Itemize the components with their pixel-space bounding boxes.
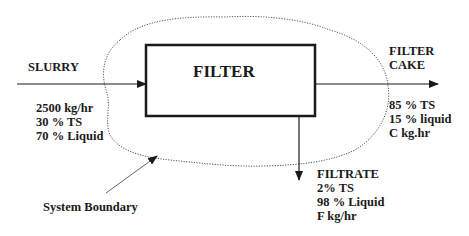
slurry-liquid: 70 % Liquid — [36, 129, 103, 144]
filter-cake-flow: C kg.hr — [389, 126, 430, 141]
slurry-flow-rate: 2500 kg/hr — [36, 101, 93, 116]
slurry-ts: 30 % TS — [36, 115, 82, 130]
filter-label: FILTER — [193, 65, 255, 80]
slurry-label: SLURRY — [28, 60, 79, 75]
boundary-pointer-arrow — [106, 156, 157, 193]
filter-cake-ts: 85 % TS — [389, 98, 435, 113]
filter-cake-liquid: 15 % liquid — [389, 112, 452, 127]
filtrate-flow: F kg/hr — [317, 209, 356, 224]
filtrate-ts: 2% TS — [317, 181, 354, 196]
system-boundary-label: System Boundary — [43, 200, 138, 215]
filtrate-liquid: 98 % Liquid — [317, 195, 384, 210]
filter-cake-label-1: FILTER — [389, 44, 434, 59]
filter-cake-label-2: CAKE — [389, 58, 425, 73]
filtrate-label: FILTRATE — [317, 167, 379, 182]
